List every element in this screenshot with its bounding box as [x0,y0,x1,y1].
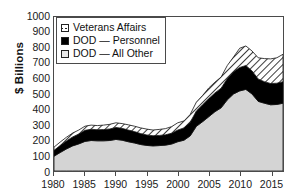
x-tick-mark-2010 [240,172,241,176]
y-tick-700: 700 [20,57,50,68]
legend-item-veterans-affairs: Veterans Affairs [61,21,160,34]
black-swatch-icon [61,37,69,45]
legend-label-dod-personnel: DOD — Personnel [73,35,160,46]
y-tick-300: 300 [20,120,50,131]
x-tick-mark-1995 [147,172,148,176]
x-tick-mark-2000 [178,172,179,176]
y-tick-800: 800 [20,42,50,53]
x-tick-mark-1980 [53,172,54,176]
chart-legend: Veterans Affairs DOD — Personnel DOD — A… [56,17,166,64]
x-tick-2015: 2015 [255,179,289,190]
light-gray-swatch-icon [61,50,69,58]
legend-label-veterans-affairs: Veterans Affairs [73,22,146,33]
x-tick-1990: 1990 [98,179,132,190]
x-tick-1995: 1995 [130,179,164,190]
x-tick-1980: 1980 [36,179,70,190]
y-tick-200: 200 [20,135,50,146]
y-tick-1000: 1000 [20,11,50,22]
x-tick-2010: 2010 [223,179,257,190]
x-tick-1985: 1985 [67,179,101,190]
y-tick-0: 0 [20,167,50,178]
diagonal-hatch-swatch-icon [61,24,69,32]
legend-label-dod-all-other: DOD — All Other [73,48,153,59]
defense-spending-area-chart: $ Billions 01002003004005006007008009001… [0,0,291,196]
y-tick-100: 100 [20,151,50,162]
y-tick-500: 500 [20,89,50,100]
legend-item-dod-personnel: DOD — Personnel [61,34,160,47]
x-tick-mark-2015 [272,172,273,176]
x-tick-2000: 2000 [161,179,195,190]
legend-item-dod-all-other: DOD — All Other [61,47,160,60]
y-tick-600: 600 [20,73,50,84]
x-tick-mark-1985 [84,172,85,176]
y-axis-tick-labels: 01002003004005006007008009001000 [18,0,50,196]
y-tick-400: 400 [20,104,50,115]
x-tick-mark-2005 [209,172,210,176]
x-tick-2005: 2005 [192,179,226,190]
x-tick-mark-1990 [115,172,116,176]
y-tick-900: 900 [20,26,50,37]
